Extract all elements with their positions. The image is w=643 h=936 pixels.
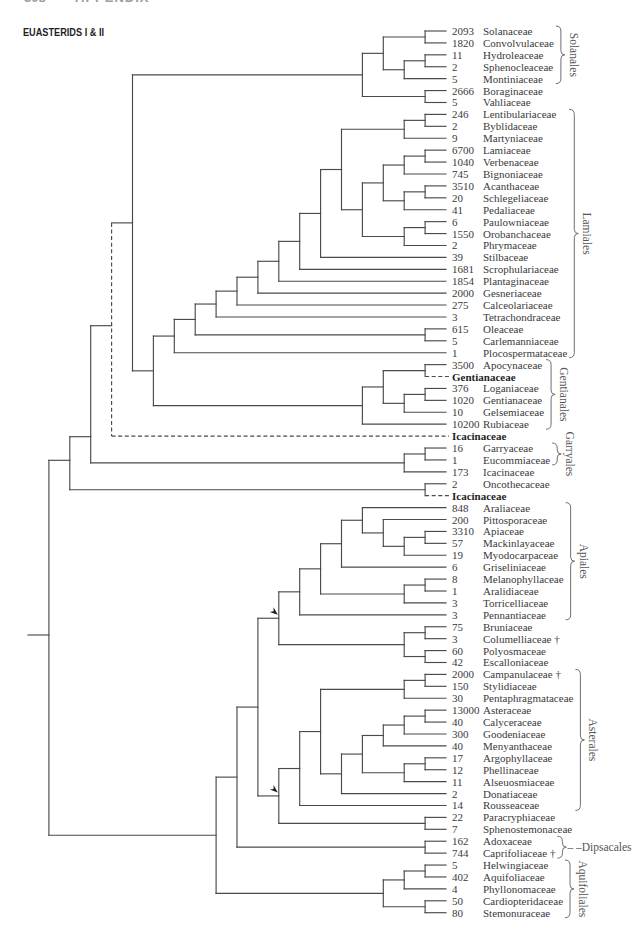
family-name: Montiniaceae <box>483 73 543 85</box>
order-bracket <box>556 26 565 84</box>
order-label: Asterales <box>587 719 599 762</box>
species-count: 16 <box>452 442 464 454</box>
family-name: Argophyllaceae <box>483 752 553 764</box>
species-count: 275 <box>452 299 469 311</box>
family-name: Apocynaceae <box>483 359 542 371</box>
family-name: Araliaceae <box>483 502 530 514</box>
order-bracket <box>575 669 584 810</box>
family-name: Bignoniaceae <box>483 168 543 180</box>
family-name: Mackinlayaceae <box>483 537 555 549</box>
species-count: 22 <box>452 811 463 823</box>
family-name: Oleaceae <box>483 323 523 335</box>
family-name: Vahliaceae <box>483 96 531 108</box>
species-count: 200 <box>452 514 469 526</box>
family-name: Caprifoliaceae † <box>483 847 556 859</box>
species-count: 30 <box>452 692 464 704</box>
species-count: 2 <box>452 788 458 800</box>
species-count: 376 <box>452 382 469 394</box>
family-name: Rubiaceae <box>483 418 529 430</box>
family-name: Paracryphiaceae <box>483 811 555 823</box>
family-name: Byblidaceae <box>483 120 537 132</box>
family-name-uncertain: Gentianaceae <box>452 371 516 383</box>
species-count: 11 <box>452 49 463 61</box>
family-name: Calceolariaceae <box>483 299 553 311</box>
family-name: Aralidiaceae <box>483 585 539 597</box>
species-count: 6 <box>452 561 458 573</box>
order-label: – –Dipsacales <box>566 841 632 854</box>
family-name: Phellinaceae <box>483 764 539 776</box>
species-count: 5 <box>452 335 458 347</box>
species-count: 13000 <box>452 704 480 716</box>
family-name: Stilbaceae <box>483 251 528 263</box>
species-count: 3 <box>452 597 458 609</box>
family-name: Paulowniaceae <box>483 216 549 228</box>
family-name: Gentianaceae <box>483 394 542 406</box>
family-name: Bruniaceae <box>483 621 533 633</box>
species-count: 50 <box>452 895 464 907</box>
species-count: 1020 <box>452 394 475 406</box>
family-name: Escalloniaceae <box>483 656 548 668</box>
family-name: Eucommiaceae <box>483 454 550 466</box>
species-count: 40 <box>452 740 464 752</box>
species-count: 2 <box>452 61 458 73</box>
species-count: 150 <box>452 680 469 692</box>
species-count: 57 <box>452 537 464 549</box>
family-name: Myodocarpaceae <box>483 549 558 561</box>
species-count: 12 <box>452 764 463 776</box>
family-name: Lamiaceae <box>483 144 531 156</box>
family-name: Carlemanniaceae <box>483 335 559 347</box>
order-label: Garryales <box>563 432 576 477</box>
species-count: 402 <box>452 871 469 883</box>
species-count: 10 <box>452 406 464 418</box>
family-name: Stylidiaceae <box>483 680 537 692</box>
family-name: Aquifoliaceae <box>483 871 545 883</box>
species-count: 3 <box>452 311 458 323</box>
order-bracket <box>546 360 555 430</box>
species-count: 300 <box>452 728 469 740</box>
family-name: Loganiaceae <box>483 382 539 394</box>
running-head: APPENDIX <box>75 0 149 5</box>
family-name: Goodeniaceae <box>483 728 545 740</box>
species-count: 3510 <box>452 180 475 192</box>
arrowhead-icon <box>270 785 278 792</box>
family-name: Columelliaceae † <box>483 633 560 645</box>
species-count: 3 <box>452 609 458 621</box>
order-bracket <box>552 443 561 465</box>
species-count: 5 <box>452 96 458 108</box>
species-count: 2000 <box>452 287 475 299</box>
family-name: Calyceraceae <box>483 716 542 728</box>
species-count: 246 <box>452 108 469 120</box>
species-count: 1854 <box>452 275 475 287</box>
family-name: Solanaceae <box>483 25 533 37</box>
species-count: 14 <box>452 799 464 811</box>
species-count: 162 <box>452 835 469 847</box>
family-name-uncertain: Icacinaceae <box>452 490 506 502</box>
species-count: 20 <box>452 192 464 204</box>
species-count: 1 <box>452 585 458 597</box>
species-count: 2 <box>452 120 458 132</box>
family-name: Griseliniaceae <box>483 561 546 573</box>
family-name: Schlegeliaceae <box>483 192 548 204</box>
family-name: Martyniaceae <box>483 132 543 144</box>
species-count: 40 <box>452 716 464 728</box>
species-count: 80 <box>452 907 464 919</box>
family-name: Sphenostemonaceae <box>483 823 572 835</box>
family-name: Gesneriaceae <box>483 287 542 299</box>
family-name: Polyosmaceae <box>483 645 546 657</box>
order-brackets: SolanalesLamialesGentianalesGarryalesApi… <box>546 26 632 918</box>
leaf-labels: 2093Solanaceae1820Convolvulaceae11Hydrol… <box>452 25 574 919</box>
phylogenetic-tree: 308 APPENDIX EUASTERIDS I & II 2093Solan… <box>0 0 643 936</box>
species-count: 11 <box>452 776 463 788</box>
family-name: Helwingiaceae <box>483 859 548 871</box>
species-count: 4 <box>452 883 458 895</box>
species-count: 8 <box>452 573 458 585</box>
family-name: Boraginaceae <box>483 85 543 97</box>
order-label: Aquifoliales <box>576 860 589 917</box>
order-bracket <box>566 503 575 620</box>
family-name: Sphenocleaceae <box>483 61 553 73</box>
family-name: Asteraceae <box>483 704 531 716</box>
order-bracket <box>565 860 574 918</box>
species-count: 2 <box>452 239 458 251</box>
species-count: 1 <box>452 347 458 359</box>
family-name: Apiaceae <box>483 525 524 537</box>
